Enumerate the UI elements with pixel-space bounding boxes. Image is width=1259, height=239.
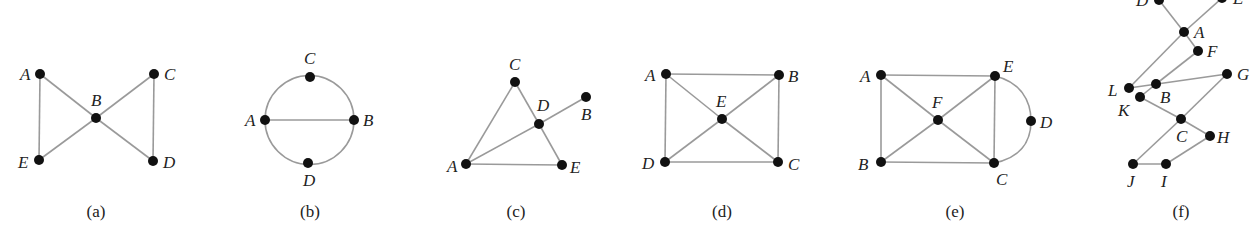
vertex-label: D [536,96,550,115]
vertex-label: D [1039,113,1053,132]
vertex-E [990,71,1000,81]
vertex-label: A [244,111,256,130]
caption-d: (d) [712,202,732,221]
vertex-I [1161,159,1171,169]
vertex-label: G [1237,65,1249,84]
vertex-label: A [446,157,458,176]
vertex-C [989,158,999,168]
vertex-label: B [363,111,374,130]
vertex-label: A [644,66,656,85]
edge-E-C [994,76,995,163]
edge-B-C [881,162,994,163]
edge-C-J [1133,119,1181,164]
edge-D-E [539,124,562,165]
vertex-C [149,69,159,79]
vertex-A [35,69,45,79]
caption-f: (f) [1173,202,1190,221]
vertex-K [1135,92,1145,102]
edges-layer [39,0,1227,165]
vertex-E [1217,0,1227,3]
graph-e [881,75,1031,163]
edge-B-D [96,118,153,161]
vertex-label: A [1193,23,1205,42]
vertex-label: C [509,55,521,74]
edge-L-G [1129,74,1227,88]
vertex-H [1205,131,1215,141]
vertex-A [1179,27,1189,37]
vertex-label: F [1206,42,1218,61]
edge-A-D [665,74,666,162]
edge-A-B [666,74,779,75]
vertex-label: B [581,105,592,124]
vertex-label: C [1176,127,1188,146]
vertex-D [1026,116,1036,126]
vertex-J [1128,159,1138,169]
vertex-label: B [788,67,799,86]
vertex-label: C [788,155,800,174]
edge-A-B [40,74,96,118]
vertex-label: E [17,153,29,172]
vertex-G [1222,69,1232,79]
graph-c [466,82,586,165]
vertex-C [305,72,315,82]
vertex-A [260,115,270,125]
caption-e: (e) [946,202,965,221]
vertex-label: I [1160,172,1168,191]
vertex-E [34,155,44,165]
edge-E-F [938,76,995,120]
vertex-label: H [1216,128,1231,147]
vertex-D [303,158,313,168]
vertex-label: F [931,93,943,112]
vertex-label: K [1117,101,1131,120]
vertex-label: C [304,49,316,68]
vertex-B [349,115,359,125]
vertex-label: E [569,158,581,177]
edge-E-D [665,119,722,162]
vertex-label: B [91,91,102,110]
vertex-A [661,69,671,79]
edge-I-H [1166,136,1210,164]
edge-F-C [938,120,994,163]
caption-c: (c) [507,202,526,221]
edge-A-E [466,164,562,165]
edge-E-C [722,119,778,162]
edge-C-G [1181,74,1227,119]
vertex-D [660,157,670,167]
caption-a: (a) [87,202,106,221]
vertex-E [717,114,727,124]
edge-A-E [881,75,995,76]
vertex-F [1193,46,1203,56]
vertex-label: D [641,154,655,173]
vertex-B [876,157,886,167]
edge-B-C [96,74,154,118]
vertex-label: A [19,65,31,84]
vertex-label: L [1107,81,1117,100]
edge-A-F [881,75,938,120]
edge-A-D [466,124,539,164]
captions-layer: (a)(b)(c)(d)(e)(f) [87,202,1190,221]
edge-C-D [515,82,539,124]
edge-F-B [881,120,938,162]
vertex-label: E [715,92,727,111]
arc-edge [994,76,1031,163]
vertex-C [510,77,520,87]
vertex-D [148,156,158,166]
vertex-D [534,119,544,129]
vertex-E [557,160,567,170]
vertex-F [933,115,943,125]
vertex-B [581,92,591,102]
vertex-label: E [1002,57,1014,76]
vertex-L [1124,83,1134,93]
vertex-A [876,70,886,80]
vertex-label: C [164,65,176,84]
vertex-label: D [1135,0,1149,10]
vertex-label: B [858,155,869,174]
vertex-B [774,70,784,80]
vertex-label: C [996,170,1008,189]
vertex-C [773,157,783,167]
vertex-B [91,113,101,123]
edge-B-E [39,118,96,160]
vertex-label: A [859,67,871,86]
edge-A-E [39,74,40,160]
labels-layer: ABCDECABDCDBAEABEDCAEFDBCDEAFGLBKCHJI [17,0,1249,191]
